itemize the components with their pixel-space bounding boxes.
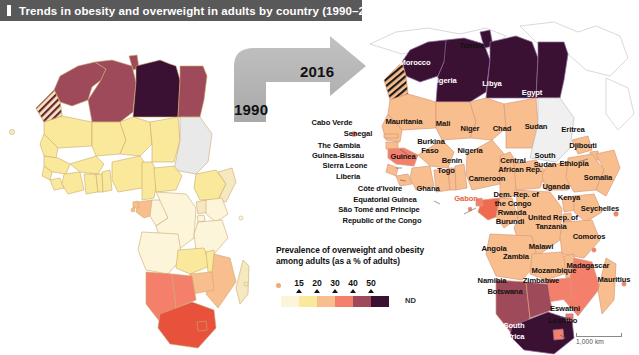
- map-label-djibouti: Djibouti: [569, 141, 596, 150]
- legend-no-data-label: ND: [405, 296, 416, 305]
- map-label-zimbabwe: Zimbabwe: [523, 276, 559, 285]
- map-label-ethiopia: Ethiopia: [559, 159, 588, 168]
- legend-tick-arrow-15: [296, 289, 302, 293]
- legend-swatch-2: [317, 296, 335, 307]
- map-label-united-rep-of: United Rep. of: [528, 213, 578, 222]
- map-label-somalia: Somalia: [584, 173, 612, 182]
- map-label-the-congo: the Congo: [495, 199, 532, 208]
- map-label-south: South: [534, 151, 555, 160]
- map-label-liberia: Liberia: [336, 172, 360, 181]
- map-label-togo: Togo: [437, 166, 455, 175]
- country-sudan-1990: [174, 117, 212, 174]
- legend-tick-arrow-20: [314, 289, 320, 293]
- country-madagascar-1990: [236, 260, 249, 304]
- scale-bar-tick-right: [621, 333, 622, 337]
- scale-bar-line: [576, 336, 622, 337]
- map-label-s-o-tom-and-principe: São Tomé and Principe: [338, 205, 419, 214]
- legend-tick-arrow-30: [332, 289, 338, 293]
- map-label-burkina: Burkina: [417, 137, 445, 146]
- country-egypt-1990: [178, 66, 207, 117]
- page-title: Trends in obesity and overweight in adul…: [19, 5, 389, 17]
- map-label-mali: Mali: [436, 119, 450, 128]
- map-label-cameroon: Cameroon: [469, 174, 506, 183]
- map-label-mauritius: Mauritius: [598, 275, 631, 284]
- map-label-kenya: Kenya: [558, 193, 580, 202]
- map-label-comoros: Comoros: [573, 232, 606, 241]
- map-label-mauritania: Mauritania: [386, 117, 423, 126]
- map-label-ghana: Ghana: [416, 184, 439, 193]
- legend-swatch-1: [299, 296, 317, 307]
- map-label-sudan: Sudan: [525, 122, 548, 131]
- country-lesotho-1990: [197, 321, 207, 331]
- map-label-rwanda: Rwanda: [498, 208, 527, 217]
- legend-tick-arrow-40: [350, 289, 356, 293]
- legend-tick-15: 15: [294, 278, 304, 288]
- legend-scale: 1520304050: [281, 278, 406, 298]
- country-burkina-1990: [70, 156, 104, 174]
- map-label-zambia: Zambia: [503, 252, 529, 261]
- legend-swatch-3: [335, 296, 353, 307]
- map-label-malawi: Malawi: [529, 242, 553, 251]
- island-dot-mauritius-1990: [244, 282, 248, 286]
- country-angola-1990: [138, 232, 182, 274]
- map-label-niger: Niger: [461, 124, 480, 133]
- figure-root: Trends in obesity and overweight in adul…: [0, 0, 639, 355]
- map-label-africa: Africa: [504, 332, 525, 341]
- year-label-2016: 2016: [300, 63, 334, 80]
- map-label-morocco: Morocco: [400, 58, 431, 67]
- scale-bar-label: 1,000 km: [576, 338, 622, 345]
- legend-swatch-0: [281, 296, 299, 307]
- map-label-botswana: Botswana: [487, 287, 522, 296]
- map-label-faso: Faso: [421, 146, 438, 155]
- map-label-gabon: Gabon: [454, 194, 478, 203]
- map-label-uganda: Uganda: [542, 182, 569, 191]
- map-label-namibia: Namibia: [478, 276, 507, 285]
- map-label-benin: Benin: [442, 156, 463, 165]
- legend-tick-50: 50: [366, 278, 376, 288]
- map-label-south: South: [503, 321, 524, 330]
- map-label-sierra-leone: Sierra Leone: [323, 161, 368, 170]
- island-dot-seychelles-1990: [239, 216, 243, 220]
- country-ghana-1990: [84, 174, 98, 194]
- map-label-sudan: Sudan: [534, 160, 557, 169]
- country-rwanda-1990: [197, 215, 205, 222]
- scale-bar-tick-left: [576, 333, 577, 337]
- legend-title-line2: among adults (as a % of adults): [276, 256, 476, 267]
- legend-swatch-row: [281, 296, 389, 307]
- map-label-eritrea: Eritrea: [561, 125, 584, 134]
- map-label-burundi: Burundi: [496, 217, 524, 226]
- country-zambia-1990: [176, 248, 210, 274]
- legend-tick-row: 1520304050: [281, 278, 406, 298]
- banner-marker-icon: [7, 5, 11, 16]
- legend-title-line1: Prevalence of overweight and obesity: [276, 245, 476, 256]
- map-label-c-te-d-ivoire: Côte d'Ivoire: [358, 184, 402, 193]
- map-label-equatorial-guinea: Equatorial Guinea: [353, 195, 416, 204]
- legend-swatch-4: [353, 296, 371, 307]
- map-label-guinea-bissau: Guinea-Bissau: [312, 151, 364, 160]
- map-label-madagascar: Madagascar: [567, 261, 610, 270]
- map-label-tunisia: Tunisia: [459, 41, 484, 50]
- map-1990-svg: [0, 22, 250, 355]
- map-label-the-gambia: The Gambia: [318, 141, 360, 150]
- legend-tick-30: 30: [330, 278, 340, 288]
- island-dot-caboverde-1990: [9, 129, 14, 134]
- map-label-eswatini: Eswatini: [550, 304, 580, 313]
- map-label-nigeria: Nigeria: [457, 146, 482, 155]
- legend-tick-40: 40: [348, 278, 358, 288]
- map-label-chad: Chad: [493, 124, 512, 133]
- map-label-seychelles: Seychelles: [581, 204, 619, 213]
- legend-tick-arrow-50: [368, 289, 374, 293]
- year-label-1990: 1990: [234, 101, 268, 118]
- map-label-algeria: Algeria: [431, 76, 456, 85]
- map-label-libya: Libya: [482, 79, 501, 88]
- country-benin-1990: [102, 170, 112, 192]
- map-label-egypt: Egypt: [522, 88, 543, 97]
- legend-tick-20: 20: [312, 278, 322, 288]
- country-cotedivoire-1990: [62, 172, 84, 194]
- country-chad-1990: [150, 117, 180, 162]
- country-libya-1990: [133, 60, 180, 117]
- map-label-dem-rep-of: Dem. Rep. of: [493, 190, 538, 199]
- country-eqguinea-1990: [133, 201, 139, 208]
- legend-swatch-5: [371, 296, 389, 307]
- map-label-lesotho: Lesotho: [549, 316, 578, 325]
